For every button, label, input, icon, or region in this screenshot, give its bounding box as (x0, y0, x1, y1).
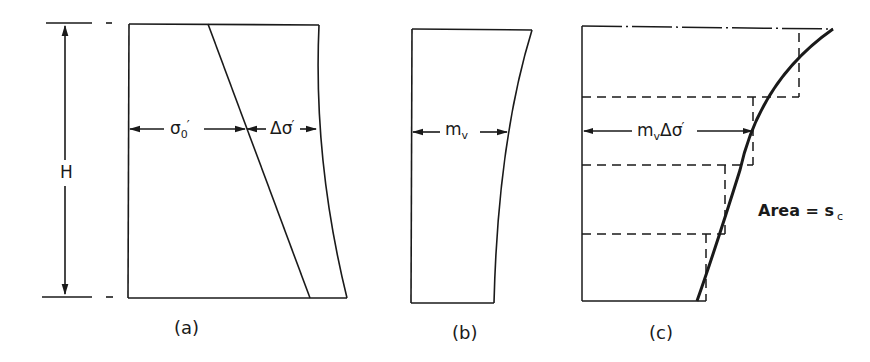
delta-sigma-prime: ′ (291, 117, 294, 132)
panel-b (411, 29, 532, 303)
height-label: H (57, 164, 76, 181)
diagram-canvas (0, 0, 870, 362)
initial-stress-label: σ0′ (167, 118, 193, 140)
strain-delta-sigma: Δσ (660, 120, 682, 140)
sigma-prime: ′ (187, 117, 190, 132)
sigma-symbol: σ (170, 118, 181, 138)
mv-box-top (412, 29, 532, 30)
stress-box-left (128, 24, 129, 298)
mv-profile-curve (494, 30, 532, 303)
stress-box-top (129, 24, 319, 25)
height-label-text: H (60, 162, 73, 182)
area-subscript: c (837, 210, 843, 223)
panel-a (42, 23, 347, 298)
strain-label: mvΔσ′ (634, 120, 687, 142)
mv-symbol: m (445, 119, 462, 139)
final-stress-curve (318, 25, 347, 298)
caption-a: (a) (174, 319, 199, 337)
initial-stress-line (208, 24, 310, 298)
step-rectangles (582, 33, 799, 301)
caption-c: (c) (649, 324, 673, 342)
strain-prime: ′ (681, 119, 684, 134)
mv-subscript: v (462, 129, 469, 142)
panel-c (582, 26, 833, 301)
stress-increment-label: Δσ′ (267, 118, 297, 137)
area-text: Area = s (758, 201, 834, 220)
mv-label: mv (442, 121, 471, 141)
delta-sigma-symbol: Δσ (270, 118, 292, 138)
mv-box-left (411, 29, 412, 303)
strain-box-top (582, 26, 833, 29)
caption-b: (b) (452, 324, 477, 342)
strain-m-symbol: m (637, 120, 654, 140)
area-label: Area = sc (755, 203, 846, 222)
